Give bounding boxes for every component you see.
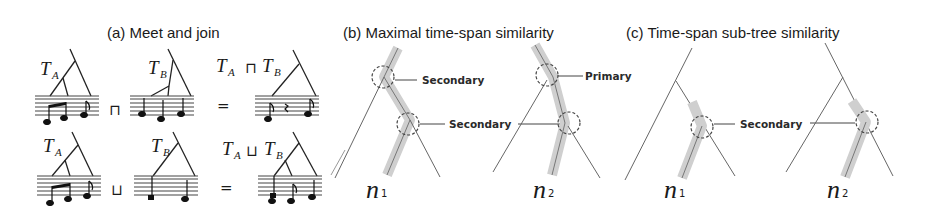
callout-secondary-1: Secondary: [422, 74, 484, 86]
notes-join-result: [269, 176, 316, 204]
staff-join-result: [258, 176, 322, 195]
node-sub-2-c: 2: [842, 188, 848, 199]
result-label-tb: T: [262, 55, 274, 76]
staff-tb-join: [134, 176, 198, 195]
notes-tb-meet: [139, 98, 185, 122]
notes-tb-join: [148, 176, 189, 202]
result-sub-a: A: [227, 66, 235, 78]
result-join-sub-a: A: [233, 149, 241, 161]
callout-primary: Primary: [585, 70, 632, 82]
notes-ta-join: [47, 181, 93, 206]
tree-label-tb: T: [148, 57, 160, 78]
result-label-ta: T: [216, 55, 228, 76]
meet-operator: ⊓: [109, 101, 121, 119]
callout-secondary-shared: Secondary: [449, 118, 511, 130]
panel-b: Secondary n 1 Secondary Primary n 2: [335, 45, 632, 204]
result-meet-op: ⊓: [245, 59, 257, 77]
callout-secondary-c: Secondary: [740, 118, 802, 130]
tree-n1-c: n 1: [625, 48, 735, 204]
join-operator: ⊔: [111, 181, 123, 199]
tree-sub-b-join: B: [163, 146, 170, 158]
join-row: T A ⊔ T B: [37, 132, 322, 206]
tree-n2-b: Primary n 2: [493, 45, 632, 204]
figure: (a) Meet and join (b) Maximal time-span …: [0, 0, 927, 217]
tree-label-ta: T: [40, 58, 52, 79]
node-label-n2: n: [533, 175, 546, 204]
node-label-n1: n: [366, 175, 379, 204]
meet-row: T A ⊓ T B: [35, 49, 319, 125]
result-join-op: ⊔: [246, 142, 258, 160]
diagram-canvas: T A ⊓ T B: [0, 0, 927, 217]
panel-c: n 1 Secondary n 2: [625, 43, 893, 204]
node-sub-1-c: 1: [679, 188, 685, 199]
tree-sub-b: B: [160, 68, 167, 80]
tree-label-tb-join: T: [151, 135, 163, 156]
meet-equals: =: [217, 97, 230, 115]
result-join-label-tb: T: [264, 138, 276, 159]
result-sub-b: B: [274, 66, 281, 78]
tree-sub-a-join: A: [54, 146, 62, 158]
result-join-sub-b: B: [276, 149, 283, 161]
tree-sub-a: A: [51, 69, 59, 81]
result-join-label-ta: T: [222, 138, 234, 159]
tree-label-ta-join: T: [43, 135, 55, 156]
join-equals: =: [220, 179, 233, 197]
node-sub-1: 1: [381, 188, 387, 199]
notes-meet-result: [265, 99, 314, 122]
node-label-n1-c: n: [664, 175, 677, 204]
notes-ta-meet: [44, 101, 90, 125]
node-label-n2-c: n: [827, 175, 840, 204]
node-sub-2: 2: [548, 188, 554, 199]
